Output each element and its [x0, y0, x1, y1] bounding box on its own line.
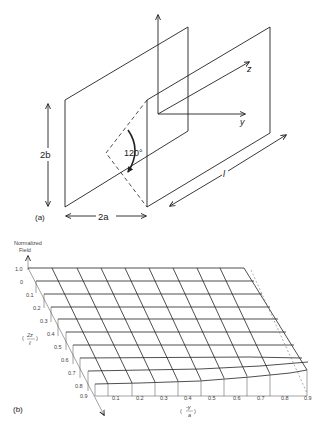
svg-text:0.3: 0.3: [160, 395, 168, 401]
height-label: 2b: [40, 149, 51, 160]
right-plate: [147, 27, 270, 207]
back-edge-dashed: [251, 270, 307, 393]
svg-text:0.6: 0.6: [233, 395, 241, 401]
z-axis-arrow: [158, 62, 249, 114]
svg-text:0.4: 0.4: [184, 395, 192, 401]
svg-text:(: (: [22, 335, 24, 341]
svg-text:2z: 2z: [26, 332, 33, 338]
surface-grid-columns: [52, 268, 307, 384]
figure-b: Normalized Field 1.0: [13, 240, 312, 418]
svg-text:0.9: 0.9: [304, 395, 312, 401]
svg-text:0.3: 0.3: [40, 318, 48, 324]
svg-text:a: a: [188, 412, 191, 418]
svg-text:0.1: 0.1: [26, 292, 34, 298]
svg-text:0.7: 0.7: [68, 370, 76, 376]
svg-text:0.5: 0.5: [54, 344, 62, 350]
svg-text:ℓ: ℓ: [28, 340, 31, 346]
length-label: l: [223, 169, 226, 179]
svg-text:): ): [36, 335, 38, 341]
panel-label-a: (a): [35, 213, 45, 222]
svg-text:0.1: 0.1: [112, 395, 120, 401]
vertical-tick-1: 1.0: [15, 266, 23, 272]
svg-text:0.9: 0.9: [80, 393, 88, 399]
svg-text:-y: -y: [186, 404, 192, 410]
svg-text:0.2: 0.2: [33, 305, 41, 311]
width-label: 2a: [98, 211, 109, 222]
panel-label-b: (b): [13, 405, 23, 414]
depth-axis-label: ( 2z ℓ ): [22, 332, 38, 346]
svg-text:(: (: [180, 408, 182, 414]
svg-text:0.6: 0.6: [61, 357, 69, 363]
svg-text:): ): [194, 408, 196, 414]
vertical-axis-title-line1: Normalized: [14, 240, 42, 246]
horizontal-axis-label: ( -y a ): [180, 404, 196, 418]
svg-text:0.7: 0.7: [257, 395, 265, 401]
svg-text:0.2: 0.2: [136, 395, 144, 401]
y-axis-label: y: [239, 117, 245, 127]
horizontal-tick-labels: 0.1 0.2 0.3 0.4 0.5 0.6 0.7 0.8 0.9: [112, 395, 312, 401]
surface-grid-rows: [28, 268, 308, 384]
svg-text:0: 0: [20, 279, 23, 285]
left-edge-drops: [36, 281, 88, 391]
vertical-axis-title-line2: Field: [19, 247, 31, 253]
angle-label: 120°: [124, 148, 143, 158]
z-axis-label: z: [246, 64, 252, 74]
svg-text:0.5: 0.5: [208, 395, 216, 401]
svg-text:0.4: 0.4: [47, 331, 55, 337]
svg-text:0.8: 0.8: [281, 395, 289, 401]
length-dimension-arrow-down: [170, 175, 222, 206]
figure-a: z y 120° 2b l 2a (a): [35, 15, 286, 222]
diagram-canvas: z y 120° 2b l 2a (a) Normalized Field 1.…: [0, 0, 327, 430]
svg-text:0.8: 0.8: [75, 383, 83, 389]
